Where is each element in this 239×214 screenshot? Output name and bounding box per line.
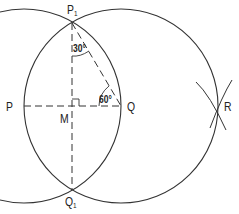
label-p: P [6,100,13,113]
line-p1q [72,23,121,106]
angle-label-60: 60° [99,95,112,105]
arc-mark-r-1 [196,82,226,130]
label-q: Q [127,100,135,113]
angle-label-30: 30° [73,44,86,54]
label-p1: P1 [67,3,78,18]
label-r: R [224,100,232,113]
construction-diagram [0,0,239,214]
right-angle-mark [72,99,79,106]
label-q1: Q1 [65,195,77,210]
label-m: M [60,112,69,125]
